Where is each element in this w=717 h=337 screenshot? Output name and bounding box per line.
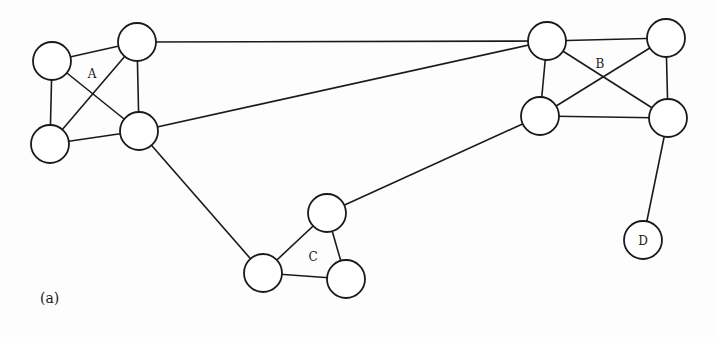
node-b3 [521, 97, 559, 135]
edge-a4-c2 [139, 131, 263, 273]
edge-b1-b4 [547, 41, 668, 118]
node-c3 [327, 260, 365, 298]
node-label-d: D [638, 234, 648, 248]
node-a3 [31, 125, 69, 163]
node-a2 [118, 23, 156, 61]
nodes-layer: D [31, 19, 687, 298]
edge-c1-b3 [327, 116, 540, 213]
edge-a2-b1 [137, 41, 547, 42]
node-c2 [244, 254, 282, 292]
node-a1 [33, 42, 71, 80]
cluster-label-b: B [596, 57, 605, 71]
cluster-label-c: C [308, 250, 317, 264]
cluster-label-a: A [87, 67, 97, 81]
node-b1 [528, 22, 566, 60]
edge-a4-b1 [139, 41, 547, 131]
network-diagram: D ABC (a) [0, 0, 717, 337]
node-b2 [647, 19, 685, 57]
edges-layer [50, 38, 668, 279]
node-c1 [308, 194, 346, 232]
node-a4 [120, 112, 158, 150]
node-b4 [649, 99, 687, 137]
figure-caption: (a) [40, 290, 59, 306]
